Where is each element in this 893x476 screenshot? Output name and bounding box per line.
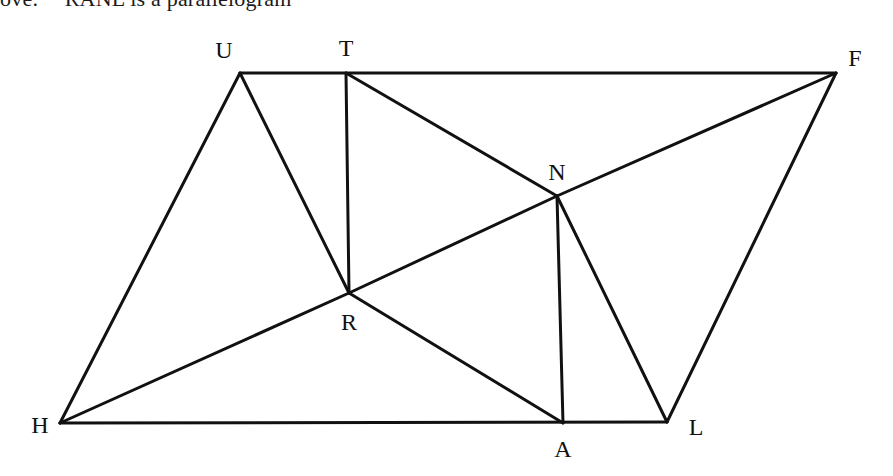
geometry-figure <box>0 0 893 476</box>
segment-fl <box>667 73 836 422</box>
segment-rn <box>349 196 557 293</box>
figure-edges <box>60 73 836 423</box>
vertex-label-a: A <box>554 437 571 461</box>
segment-nf <box>557 73 836 196</box>
vertex-label-n: N <box>548 160 565 184</box>
vertex-label-r: R <box>341 310 357 334</box>
vertex-label-l: L <box>689 415 704 439</box>
segment-uh <box>60 73 240 423</box>
vertex-label-f: F <box>848 46 861 70</box>
segment-ra <box>349 293 563 423</box>
segment-tr <box>346 73 349 293</box>
segment-tn <box>346 73 557 196</box>
segment-nl <box>557 196 667 422</box>
segment-hr <box>60 293 349 423</box>
vertex-label-t: T <box>339 36 354 60</box>
vertex-label-h: H <box>31 413 48 437</box>
segment-hl <box>60 422 667 423</box>
segment-na <box>557 196 563 423</box>
vertex-label-u: U <box>215 38 232 62</box>
segment-ur <box>240 73 349 293</box>
